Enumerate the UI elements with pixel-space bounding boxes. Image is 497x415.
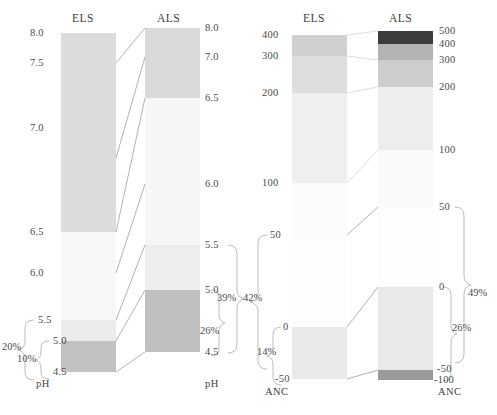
tick-label: 7.0 [30,122,44,133]
connector-line [347,150,378,183]
column-anc-els [292,35,347,379]
segment-anc-els-2 [292,56,347,93]
tick-label: -100 [434,374,454,385]
segment-ph-als-3 [145,245,200,290]
segment-anc-els-5 [292,235,347,327]
tick-label: 200 [439,81,455,92]
segment-anc-als-2 [378,44,433,60]
connector-line [347,370,378,379]
bracket-anc-als-outer [455,207,471,363]
axis-name-anc-els: ANC [265,386,288,397]
column-ph-els [61,33,116,372]
connector-line [347,207,378,235]
connector-line [116,184,145,273]
tick-label: 6.0 [30,267,44,278]
tick-label: 200 [262,87,278,98]
tick-label: 5.5 [38,314,52,325]
tick-label: -50 [275,373,290,384]
segment-anc-els-6 [292,327,347,379]
segment-anc-els-4 [292,183,347,235]
tick-label: 500 [439,25,455,36]
percent-anc-als-inner: 26% [452,322,471,333]
tick-label: 400 [262,29,278,40]
tick-label: 4.5 [205,346,219,357]
segment-ph-els-4 [61,341,116,372]
connectors-anc [347,31,378,183]
segment-ph-als-1 [145,28,200,98]
percent-anc-als-outer: 49% [468,287,487,298]
segment-anc-als-3 [378,60,433,87]
connector-line [347,31,378,35]
segment-ph-els-1 [61,33,116,232]
tick-label: 5.0 [53,335,67,346]
connector-line [116,57,145,158]
segment-anc-als-8 [378,370,433,380]
tick-label: 0 [283,321,288,332]
tick-label: 6.5 [30,226,44,237]
percent-ph-els-outer: 20% [2,341,21,352]
tick-label: 4.5 [53,366,67,377]
segment-anc-als-7 [378,287,433,370]
tick-label: 100 [439,144,455,155]
figure-graphics [0,0,497,415]
axis-name-ph-als: pH [205,378,219,389]
tick-label: 300 [262,50,278,61]
connector-line [347,87,378,93]
column-header-anc-els: ELS [303,12,325,24]
tick-label: 7.5 [30,57,44,68]
tick-label: 50 [439,201,450,212]
tick-label: 0 [439,281,444,292]
tick-label: 300 [439,54,455,65]
segment-anc-els-1 [292,35,347,56]
percent-anc-els-inner: 14% [257,346,276,357]
segment-anc-als-5 [378,150,433,207]
tick-label: 100 [262,177,278,188]
segment-anc-els-3 [292,93,347,183]
connector-line [116,245,145,320]
tick-label: 7.0 [205,51,219,62]
segment-ph-als-2 [145,98,200,245]
connector-line [347,56,378,60]
tick-label: 6.5 [205,92,219,103]
segment-ph-els-2 [61,232,116,320]
percent-anc-els-outer: 42% [243,292,262,303]
segment-ph-als-4 [145,290,200,352]
axis-name-ph-els: pH [36,378,50,389]
tick-label: 8.0 [30,27,44,38]
tick-label: 8.0 [205,22,219,33]
connector-line [116,352,145,372]
column-header-ph-als: ALS [157,12,180,24]
axis-name-anc-als: ANC [438,386,461,397]
connectors-ph [116,28,145,372]
tick-label: 50 [270,229,281,240]
tick-label: 5.5 [205,239,219,250]
percent-ph-els-inner: 10% [17,353,36,364]
connector-line [347,287,378,327]
column-header-ph-els: ELS [72,12,94,24]
tick-label: -50 [437,363,452,374]
tick-label: 400 [439,38,455,49]
column-header-anc-als: ALS [389,12,412,24]
segment-anc-als-1 [378,31,433,44]
figure-canvas: ELS ALS ELS ALS pH pH ANC ANC 8.0 7.5 7.… [0,0,497,415]
percent-ph-als-outer: 39% [217,292,236,303]
connector-line [116,98,145,232]
connector-line [116,28,145,63]
column-ph-als [145,28,200,352]
segment-ph-els-3 [61,320,116,341]
column-anc-als [378,31,433,380]
segment-anc-als-4 [378,87,433,150]
bracket-ph-els-inner [35,341,49,379]
percent-ph-als-inner: 26% [200,325,219,336]
tick-label: 6.0 [205,178,219,189]
connectors-anc-dark [347,207,378,379]
segment-anc-als-6 [378,207,433,287]
connector-line [116,290,145,341]
